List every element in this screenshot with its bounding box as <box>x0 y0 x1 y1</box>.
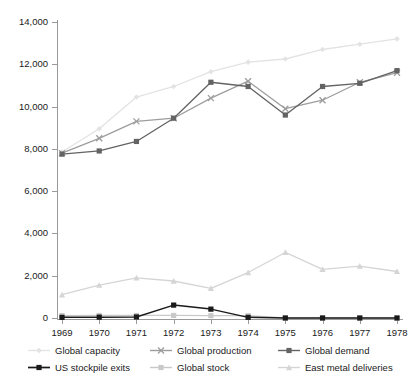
data-point-square <box>134 139 139 144</box>
data-point-square <box>208 80 213 85</box>
legend-marker-global-stock <box>150 362 172 373</box>
legend-label-east-metal-deliveries: East metal deliveries <box>305 363 393 373</box>
data-point-square <box>134 314 139 319</box>
legend-item-global-demand[interactable]: Global demand <box>278 343 369 358</box>
data-point-square <box>158 365 163 370</box>
data-point-square <box>171 116 176 121</box>
data-point-square <box>357 315 362 320</box>
data-point-square <box>208 307 213 312</box>
data-point-square <box>59 315 64 320</box>
data-point-square <box>320 84 325 89</box>
data-point-cross <box>208 95 214 101</box>
data-point-cross <box>96 135 102 141</box>
series-global-demand <box>59 68 399 157</box>
legend-marker-global-production <box>150 345 172 356</box>
data-point-square <box>59 152 64 157</box>
legend-item-global-capacity[interactable]: Global capacity <box>28 343 120 358</box>
legend-item-east-metal-deliveries[interactable]: East metal deliveries <box>278 360 393 375</box>
data-point-diamond <box>245 59 251 65</box>
legend-label-global-production: Global production <box>177 346 251 356</box>
series-us-stockpile-exits <box>59 303 399 321</box>
legend-label-global-stock: Global stock <box>177 363 229 373</box>
series-east-metal-deliveries <box>59 249 400 297</box>
data-point-diamond <box>320 47 326 53</box>
chart-legend: Global capacity Global production Global… <box>0 343 411 377</box>
data-point-diamond <box>208 69 214 75</box>
line-chart: 02,0004,0006,0008,00010,00012,00014,000 … <box>0 0 411 384</box>
legend-marker-global-capacity <box>28 345 50 356</box>
series-global-capacity <box>59 36 400 155</box>
legend-marker-east-metal-deliveries <box>278 362 300 373</box>
series-line <box>62 39 397 152</box>
data-point-square <box>36 365 41 370</box>
legend-label-us-stockpile-exits: US stockpile exits <box>55 363 130 373</box>
legend-label-global-capacity: Global capacity <box>55 346 120 356</box>
data-point-triangle <box>282 249 288 255</box>
series-line <box>62 252 397 294</box>
data-point-triangle <box>245 269 251 275</box>
data-point-square <box>171 303 176 308</box>
data-point-square <box>286 348 291 353</box>
legend-item-global-stock[interactable]: Global stock <box>150 360 229 375</box>
legend-item-us-stockpile-exits[interactable]: US stockpile exits <box>28 360 130 375</box>
data-point-square <box>283 315 288 320</box>
legend-row-1: Global capacity Global production Global… <box>0 343 411 358</box>
data-point-square <box>394 68 399 73</box>
data-point-square <box>357 81 362 86</box>
data-point-diamond <box>394 36 400 42</box>
data-point-diamond <box>357 41 363 47</box>
data-point-diamond <box>171 84 177 90</box>
series-global-production <box>59 70 400 156</box>
legend-item-global-production[interactable]: Global production <box>150 343 251 358</box>
series-layer <box>0 0 411 384</box>
data-point-square <box>171 313 176 318</box>
data-point-square <box>283 112 288 117</box>
data-point-square <box>208 313 213 318</box>
data-point-square <box>246 84 251 89</box>
data-point-square <box>394 315 399 320</box>
data-point-diamond <box>283 56 289 62</box>
data-point-cross <box>245 78 251 84</box>
data-point-diamond <box>36 348 42 354</box>
legend-label-global-demand: Global demand <box>305 346 369 356</box>
legend-row-2: US stockpile exits Global stock East met… <box>0 360 411 375</box>
legend-marker-global-demand <box>278 345 300 356</box>
data-point-square <box>97 315 102 320</box>
data-point-square <box>97 148 102 153</box>
series-line <box>62 71 397 155</box>
legend-marker-us-stockpile-exits <box>28 362 50 373</box>
data-point-square <box>320 315 325 320</box>
data-point-square <box>246 315 251 320</box>
